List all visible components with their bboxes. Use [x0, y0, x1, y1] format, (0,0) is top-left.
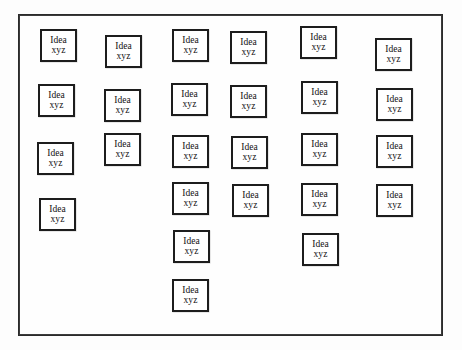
idea-card[interactable]: Ideaxyz: [172, 29, 209, 62]
idea-card-subtitle: xyz: [183, 152, 197, 162]
idea-card-subtitle: xyz: [387, 152, 401, 162]
idea-card-subtitle: xyz: [313, 250, 327, 260]
idea-card[interactable]: Ideaxyz: [375, 38, 412, 71]
idea-card[interactable]: Ideaxyz: [301, 183, 338, 216]
idea-card-subtitle: xyz: [115, 106, 129, 116]
idea-card[interactable]: Ideaxyz: [376, 135, 413, 168]
idea-card-subtitle: xyz: [311, 43, 325, 53]
idea-card-subtitle: xyz: [116, 52, 130, 62]
idea-card[interactable]: Ideaxyz: [302, 233, 339, 266]
idea-card[interactable]: Ideaxyz: [300, 26, 337, 59]
idea-card[interactable]: Ideaxyz: [376, 184, 413, 217]
idea-card-subtitle: xyz: [183, 296, 197, 306]
idea-card-subtitle: xyz: [115, 150, 129, 160]
idea-card[interactable]: Ideaxyz: [230, 31, 267, 64]
idea-card-subtitle: xyz: [182, 100, 196, 110]
idea-card[interactable]: Ideaxyz: [231, 136, 268, 169]
board-frame: IdeaxyzIdeaxyzIdeaxyzIdeaxyzIdeaxyzIdeax…: [18, 14, 443, 336]
idea-card[interactable]: Ideaxyz: [301, 133, 338, 166]
idea-card-subtitle: xyz: [48, 159, 62, 169]
idea-card-subtitle: xyz: [387, 201, 401, 211]
idea-card-subtitle: xyz: [51, 46, 65, 56]
idea-card[interactable]: Ideaxyz: [38, 84, 75, 117]
idea-card-subtitle: xyz: [183, 46, 197, 56]
idea-card[interactable]: Ideaxyz: [232, 184, 269, 217]
idea-card-subtitle: xyz: [241, 102, 255, 112]
idea-card[interactable]: Ideaxyz: [105, 35, 142, 68]
idea-card-subtitle: xyz: [183, 199, 197, 209]
idea-card[interactable]: Ideaxyz: [230, 85, 267, 118]
idea-card[interactable]: Ideaxyz: [376, 88, 413, 121]
idea-card[interactable]: Ideaxyz: [172, 279, 209, 312]
idea-card-subtitle: xyz: [312, 200, 326, 210]
idea-card-subtitle: xyz: [312, 98, 326, 108]
idea-card[interactable]: Ideaxyz: [104, 89, 141, 122]
idea-card-subtitle: xyz: [386, 55, 400, 65]
idea-card[interactable]: Ideaxyz: [172, 135, 209, 168]
diagram-canvas: IdeaxyzIdeaxyzIdeaxyzIdeaxyzIdeaxyzIdeax…: [0, 0, 462, 350]
idea-card-subtitle: xyz: [243, 201, 257, 211]
idea-card-subtitle: xyz: [50, 215, 64, 225]
idea-card-subtitle: xyz: [184, 247, 198, 257]
idea-card[interactable]: Ideaxyz: [171, 83, 208, 116]
idea-card-subtitle: xyz: [242, 153, 256, 163]
idea-card[interactable]: Ideaxyz: [104, 133, 141, 166]
idea-card-subtitle: xyz: [49, 101, 63, 111]
idea-card[interactable]: Ideaxyz: [301, 81, 338, 114]
idea-card-subtitle: xyz: [241, 48, 255, 58]
idea-card[interactable]: Ideaxyz: [172, 182, 209, 215]
idea-card-subtitle: xyz: [387, 105, 401, 115]
idea-card[interactable]: Ideaxyz: [40, 29, 77, 62]
idea-card[interactable]: Ideaxyz: [37, 142, 74, 175]
idea-card[interactable]: Ideaxyz: [39, 198, 76, 231]
idea-card-subtitle: xyz: [312, 150, 326, 160]
idea-card[interactable]: Ideaxyz: [173, 230, 210, 263]
